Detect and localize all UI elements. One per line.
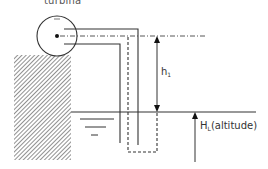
turbine-siphon-diagram: turbina h1 HL(altitude) [0, 0, 268, 169]
turbine-label: turbina [44, 0, 81, 6]
head-label: h1 [161, 67, 171, 78]
ground-block [14, 55, 71, 160]
altitude-text: (altitude) [211, 120, 257, 131]
hl-arrowhead-icon [192, 112, 198, 119]
water-column-dashed [128, 37, 157, 152]
turbine-center-dot [55, 34, 59, 38]
pipe-outer-wall [64, 29, 138, 145]
altitude-label: HL(altitude) [200, 121, 257, 132]
h1-arrowhead-top-icon [154, 36, 160, 43]
h1-arrowhead-bottom-icon [154, 105, 160, 112]
pipe-inner-wall [64, 44, 120, 143]
diagram-canvas [0, 0, 268, 169]
head-subscript: 1 [167, 71, 171, 78]
altitude-symbol: H [200, 120, 208, 131]
